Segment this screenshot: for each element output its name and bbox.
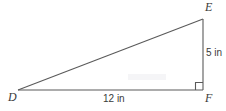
vertex-label-d: D bbox=[8, 91, 17, 103]
side-label-height: 5 in bbox=[206, 47, 222, 58]
vertex-label-e: E bbox=[205, 1, 212, 13]
side-label-base: 12 in bbox=[103, 93, 125, 104]
triangle-figure: D E F 12 in 5 in bbox=[0, 0, 226, 111]
right-angle-marker-icon bbox=[196, 83, 204, 91]
side-hypotenuse-line bbox=[18, 19, 203, 90]
vertex-label-f: F bbox=[205, 92, 212, 104]
